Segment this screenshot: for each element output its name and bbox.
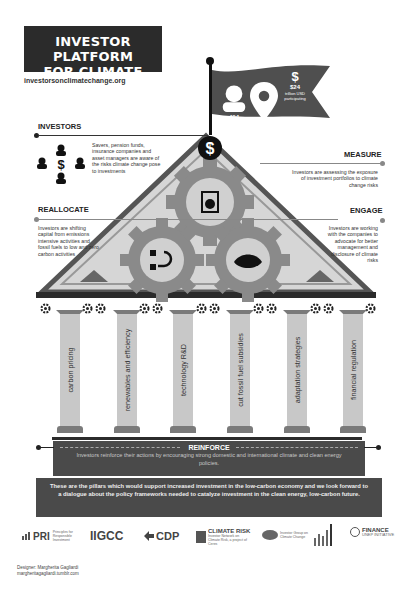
logo-unep-fi: FINANCE UNEP INITIATIVE <box>350 527 394 537</box>
engage-label: ENGAGE <box>350 206 383 215</box>
pillar-base <box>227 426 253 433</box>
logo-pri: PRI Principles for Responsible Investmen… <box>22 530 77 542</box>
pyramid-roof: $ <box>36 132 376 302</box>
measure-label: MEASURE <box>344 150 382 159</box>
title-line-1: INVESTOR PLATFORM <box>24 34 162 64</box>
stat-countries: 40 countries <box>250 82 278 135</box>
gear-icon <box>139 303 150 314</box>
investors-network-icon: $ <box>36 144 86 188</box>
measure-description: Investors are assessing the exposure of … <box>290 169 378 188</box>
gear-icon <box>40 303 51 314</box>
gear-icon <box>266 303 277 314</box>
pillar-base <box>170 426 196 433</box>
gear-icon <box>82 303 93 314</box>
pillar-label: adaptation strategies <box>293 337 302 404</box>
pillar-carbon-pricing: carbon pricing <box>60 310 80 434</box>
gear-icon <box>310 303 321 314</box>
pillar-technology: technology R&D <box>173 310 193 434</box>
pillar-base <box>340 426 366 433</box>
measure-line <box>260 163 380 164</box>
logo-igcc: Investor Group on Climate Change <box>262 530 308 540</box>
reinforce-dashed-line <box>60 447 180 448</box>
investors-line <box>38 135 208 136</box>
reallocate-label: REALLOCATE <box>38 205 89 214</box>
reallocate-description: Investors are shifting capital from emis… <box>38 225 100 257</box>
pillar-label: cut fossil fuel subsidies <box>236 333 245 407</box>
pillars-floor <box>52 437 362 440</box>
cdp-arrows-icon <box>144 531 154 541</box>
pillar-adaptation: adaptation strategies <box>287 310 307 434</box>
logo-aigcc <box>314 524 334 550</box>
reinforce-connector <box>40 447 54 448</box>
ceres-icon <box>196 531 206 543</box>
igcc-globe-icon <box>262 530 278 540</box>
svg-text:$: $ <box>57 157 65 172</box>
stat-investors: 404 investors <box>220 84 248 126</box>
bar-chart-logo-icon <box>314 524 334 546</box>
gear-icon <box>152 303 163 314</box>
logo-cdp: CDP <box>144 530 179 542</box>
reinforce-dot-left <box>36 445 41 450</box>
gear-icon <box>95 303 106 314</box>
gear-icon <box>323 303 334 314</box>
engage-dot <box>380 218 385 223</box>
page-title: INVESTOR PLATFORM FOR CLIMATE ACTIONS <box>24 26 162 72</box>
reinforce-text: Investors reinforce their actions by enc… <box>53 452 365 467</box>
logo-iigcc: IIGCC <box>90 529 123 543</box>
unep-globe-icon <box>350 527 360 537</box>
pillar-label: technology R&D <box>179 344 188 396</box>
person-icon <box>220 84 248 114</box>
pri-bars-icon <box>22 532 30 540</box>
gear-icon <box>365 303 376 314</box>
designer-link[interactable]: margheritagagliardi.tumblr.com <box>17 571 79 577</box>
pillars-note: These are the pillars which would suppor… <box>36 478 382 517</box>
gear-icon <box>196 303 207 314</box>
dollar-icon: $ <box>280 70 310 84</box>
engage-description: Investors are working with the companies… <box>322 225 378 263</box>
pillar-renewables: renewables and efficiency <box>117 310 137 434</box>
investors-label: INVESTORS <box>38 122 81 131</box>
reallocate-line <box>38 219 338 220</box>
pillar-financial-regulation: financial regulation <box>343 310 363 434</box>
reinforce-dot-right <box>376 445 381 450</box>
reinforce-dashed-line <box>236 447 358 448</box>
website-link[interactable]: investorsonclimatechange.org <box>24 77 126 84</box>
svg-text:$: $ <box>206 140 215 157</box>
pillar-base <box>284 426 310 433</box>
pillar-label: renewables and efficiency <box>123 329 132 412</box>
stat-assets: $ $24 trillion USD participating <box>280 70 310 101</box>
pillar-base <box>57 426 83 433</box>
gear-icon <box>253 303 264 314</box>
designer-credit: Designer: Margherita Gagliardi margherit… <box>17 565 79 576</box>
stats-flag: 404 investors 40 countries $ $24 trillio… <box>212 62 332 118</box>
pillar-label: financial regulation <box>349 340 358 400</box>
pillar-fossil-subsidies: cut fossil fuel subsidies <box>230 310 250 434</box>
gear-icon <box>209 303 220 314</box>
measure-dot <box>380 161 385 166</box>
investors-description: Savers, pension funds, insurance compani… <box>92 142 164 174</box>
location-pin-icon <box>250 82 278 123</box>
pillar-label: carbon pricing <box>66 347 75 392</box>
logo-climate-risk: CLIMATE RISK Investor Network on Climate… <box>196 528 250 546</box>
pillar-base <box>114 426 140 433</box>
